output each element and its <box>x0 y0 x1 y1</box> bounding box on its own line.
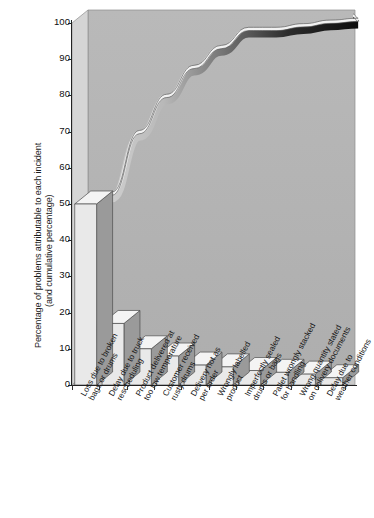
x-axis-tick-labels: Loss due to brokenbags or drumsDelay due… <box>0 392 371 518</box>
y-tick-mark-70 <box>68 132 72 133</box>
y-tick-mark-10 <box>68 349 72 350</box>
y-axis-line <box>71 20 72 386</box>
y-tick-mark-30 <box>68 276 72 277</box>
y-tick-mark-20 <box>68 313 72 314</box>
y-tick-mark-40 <box>68 240 72 241</box>
x-tick-mark-8 <box>291 385 292 390</box>
bar-front-face-1 <box>75 204 97 385</box>
x-tick-mark-2 <box>127 385 128 390</box>
x-tick-mark-9 <box>318 385 319 390</box>
x-tick-mark-6 <box>236 385 237 390</box>
y-tick-mark-100 <box>68 23 72 24</box>
x-tick-mark-1 <box>99 385 100 390</box>
x-tick-mark-3 <box>154 385 155 390</box>
x-tick-mark-0 <box>72 385 73 390</box>
y-tick-mark-90 <box>68 59 72 60</box>
x-tick-mark-4 <box>181 385 182 390</box>
x-tick-mark-10 <box>345 385 346 390</box>
x-tick-mark-5 <box>209 385 210 390</box>
y-tick-mark-80 <box>68 95 72 96</box>
x-tick-mark-7 <box>263 385 264 390</box>
y-tick-mark-50 <box>68 204 72 205</box>
y-tick-mark-60 <box>68 168 72 169</box>
